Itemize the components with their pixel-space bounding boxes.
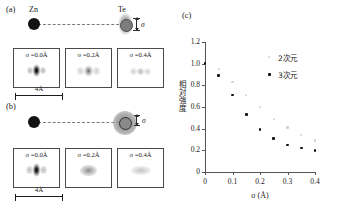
y-axis-tick: [202, 85, 205, 86]
y-axis-tick-label: 0.4: [172, 124, 200, 133]
x-axis-tick-label: 0.3: [274, 177, 302, 186]
x-axis-title: σ (Å): [225, 191, 295, 200]
data-point: [245, 113, 248, 116]
y-axis-tick: [202, 129, 205, 130]
y-axis-tick: [202, 42, 205, 43]
legend-label: 3次元: [278, 69, 297, 80]
y-axis-tick-label: 0.2: [172, 145, 200, 154]
data-point: [273, 118, 275, 120]
y-axis-tick-label: 1.2: [172, 37, 200, 46]
relative-intensity-scatter-chart: 相対強度 σ (Å) 00.20.40.60.81.01.200.10.20.3…: [0, 0, 340, 212]
y-axis-tick-label: 0: [172, 167, 200, 176]
x-axis-tick-label: 0.4: [301, 177, 329, 186]
x-axis-tick: [315, 172, 316, 175]
data-point: [314, 139, 316, 141]
x-axis-tick-label: 0.2: [246, 177, 274, 186]
y-axis-tick-label: 0.6: [172, 102, 200, 111]
x-axis-tick-label: 0: [191, 177, 219, 186]
y-axis-tick: [202, 150, 205, 151]
data-point: [218, 68, 220, 70]
data-point: [217, 74, 220, 77]
y-axis-tick-label: 1.0: [172, 59, 200, 68]
data-point: [272, 137, 275, 140]
data-point: [286, 126, 288, 128]
y-axis-tick: [202, 107, 205, 108]
x-axis-tick: [260, 172, 261, 175]
legend-marker: [268, 73, 271, 76]
legend-label: 2次元: [278, 52, 297, 63]
data-point: [231, 81, 233, 83]
y-axis-tick-label: 0.8: [172, 80, 200, 89]
x-axis-tick: [288, 172, 289, 175]
x-axis-tick-label: 0.1: [219, 177, 247, 186]
data-point: [286, 144, 289, 147]
data-point: [314, 149, 317, 152]
x-axis-tick: [205, 172, 206, 175]
figure-root: (a) Zn Te σ σ =0.0Å σ =0.2Å σ =0.4Å 4Å: [0, 0, 340, 212]
x-axis-tick: [233, 172, 234, 175]
